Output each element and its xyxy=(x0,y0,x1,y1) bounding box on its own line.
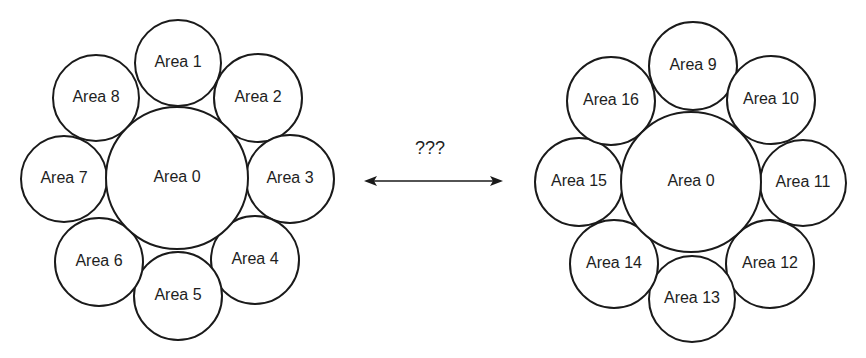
left-area-4-label: Area 4 xyxy=(231,250,278,267)
right-area-11: Area 11 xyxy=(760,140,846,226)
right-area-9: Area 9 xyxy=(649,22,737,110)
left-area-5: Area 5 xyxy=(134,252,222,340)
right-area-14-label: Area 14 xyxy=(586,254,642,271)
left-area-3-label: Area 3 xyxy=(266,169,313,186)
right-area-16-label: Area 16 xyxy=(583,91,639,108)
right-backbone-area-0-label: Area 0 xyxy=(667,172,714,189)
left-area-6-label: Area 6 xyxy=(75,252,122,269)
left-area-8-label: Area 8 xyxy=(72,88,119,105)
left-area-1-label: Area 1 xyxy=(154,53,201,70)
right-area-15-label: Area 15 xyxy=(551,172,607,189)
connection-arrow: ??? xyxy=(364,138,503,186)
right-area-11-label: Area 11 xyxy=(776,173,831,190)
left-area-7-label: Area 7 xyxy=(40,169,87,186)
right-area-15: Area 15 xyxy=(535,138,623,226)
right-backbone-area-0: Area 0 xyxy=(621,112,761,252)
left-area-7: Area 7 xyxy=(21,136,107,222)
left-area-2-label: Area 2 xyxy=(234,88,281,105)
right-area-13: Area 13 xyxy=(649,256,735,342)
connection-label: ??? xyxy=(415,138,445,158)
left-area-cluster: Area 1Area 2Area 3Area 4Area 5Area 6Area… xyxy=(21,20,334,340)
right-area-cluster: Area 9Area 10Area 11Area 12Area 13Area 1… xyxy=(535,22,846,342)
left-area-5-label: Area 5 xyxy=(154,286,201,303)
left-area-3: Area 3 xyxy=(246,135,334,223)
right-area-13-label: Area 13 xyxy=(664,289,720,306)
ospf-areas-diagram: Area 1Area 2Area 3Area 4Area 5Area 6Area… xyxy=(0,0,866,358)
left-area-1: Area 1 xyxy=(135,20,221,106)
right-area-10-label: Area 10 xyxy=(743,90,799,107)
left-backbone-area-0: Area 0 xyxy=(106,107,248,249)
left-backbone-area-0-label: Area 0 xyxy=(153,168,200,185)
right-area-10: Area 10 xyxy=(727,56,815,144)
right-area-9-label: Area 9 xyxy=(669,56,716,73)
right-area-12-label: Area 12 xyxy=(742,254,798,271)
